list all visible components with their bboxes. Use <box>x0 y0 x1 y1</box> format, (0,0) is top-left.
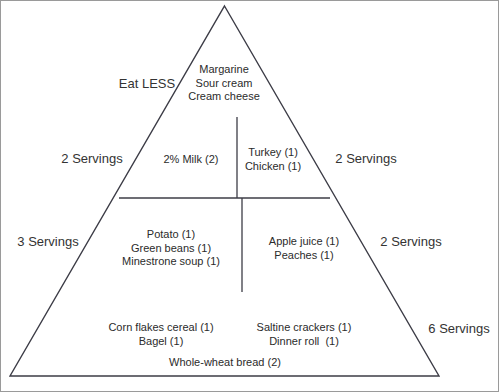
tier-protein-items: Turkey (1) Chicken (1) <box>245 146 301 173</box>
food-pyramid-diagram: Margarine Sour cream Cream cheese Eat LE… <box>0 0 499 392</box>
tier-grains-items-bottom: Whole-wheat bread (2) <box>169 356 281 370</box>
tier-protein-side-label: 2 Servings <box>335 151 396 166</box>
tier-grains-side-label: 6 Servings <box>428 321 489 336</box>
tier-fruits-items: Apple juice (1) Peaches (1) <box>269 235 339 262</box>
tier-vegetables-items: Potato (1) Green beans (1) Minestrone so… <box>122 228 220 269</box>
pyramid-triangle <box>10 6 439 376</box>
tier-vegetables-side-label: 3 Servings <box>17 234 78 249</box>
pyramid-graphic <box>1 1 499 392</box>
pyramid-outline <box>10 6 439 376</box>
tier-dairy-side-label: 2 Servings <box>61 151 122 166</box>
tier-grains-items-left: Corn flakes cereal (1) Bagel (1) <box>108 321 213 348</box>
tier-fats-items: Margarine Sour cream Cream cheese <box>188 63 260 104</box>
tier-dairy-items: 2% Milk (2) <box>163 153 218 167</box>
tier-fats-side-label: Eat LESS <box>119 76 175 91</box>
tier-grains-items-right: Saltine crackers (1) Dinner roll (1) <box>257 321 352 348</box>
tier-fruits-side-label: 2 Servings <box>380 234 441 249</box>
